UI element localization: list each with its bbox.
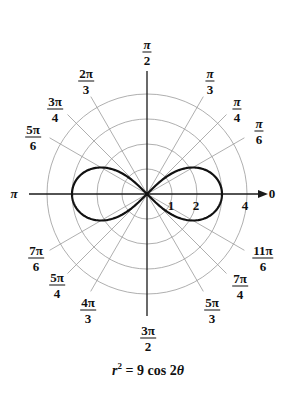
radial-label-1: 1 [168, 198, 175, 214]
denominator: 6 [30, 138, 37, 152]
angle-label-pi-2: π 2 [142, 38, 151, 67]
numerator: 5π [204, 296, 220, 311]
angle-label-pi-3: π 3 [205, 67, 214, 96]
angle-label-2pi-3: 2π 3 [78, 67, 94, 96]
equation-var-theta: θ [177, 363, 184, 378]
denominator: 3 [85, 311, 92, 325]
denominator: 4 [54, 286, 61, 300]
denominator: 2 [144, 53, 151, 67]
denominator: 3 [209, 311, 216, 325]
equation-rhs: = 9 cos 2 [126, 363, 177, 378]
denominator: 6 [33, 259, 40, 273]
angle-label-11pi-6: 11π 6 [252, 244, 273, 273]
angle-label-0: 0 [269, 186, 276, 202]
angle-label-5pi-4: 5π 4 [49, 271, 65, 300]
denominator: 4 [237, 287, 244, 301]
numerator: 5π [49, 271, 65, 286]
radial-label-2: 2 [193, 198, 200, 214]
numerator: 4π [80, 296, 96, 311]
equation-exponent: 2 [118, 361, 123, 371]
angle-label-4pi-3: 4π 3 [80, 296, 96, 325]
axis-arrowhead-icon [258, 190, 268, 198]
numerator: 7π [28, 244, 44, 259]
angle-label-5pi-3: 5π 3 [204, 296, 220, 325]
denominator: 6 [256, 132, 263, 146]
numerator: 3π [140, 324, 156, 339]
numerator: 5π [25, 123, 41, 138]
angle-label-5pi-6: 5π 6 [25, 123, 41, 152]
numerator: 11π [252, 244, 273, 259]
angle-label-pi: π [10, 186, 17, 202]
angle-label-pi-4: π 4 [232, 95, 241, 124]
denominator: 6 [260, 259, 267, 273]
numerator: π [142, 38, 151, 53]
denominator: 4 [234, 110, 241, 124]
denominator: 3 [83, 82, 90, 96]
angle-label-3pi-2: 3π 2 [140, 324, 156, 353]
angle-label-7pi-6: 7π 6 [28, 244, 44, 273]
numerator: 3π [47, 95, 63, 110]
denominator: 3 [207, 82, 214, 96]
denominator: 2 [145, 339, 152, 353]
angle-label-pi-6: π 6 [254, 117, 263, 146]
numerator: π [232, 95, 241, 110]
angle-label-7pi-4: 7π 4 [232, 272, 248, 301]
numerator: π [205, 67, 214, 82]
numerator: 2π [78, 67, 94, 82]
denominator: 4 [52, 110, 59, 124]
radial-label-4: 4 [242, 198, 249, 214]
pole-point [145, 192, 149, 196]
equation-caption: r2 = 9 cos 2θ [112, 361, 184, 379]
numerator: π [254, 117, 263, 132]
angle-label-3pi-4: 3π 4 [47, 95, 63, 124]
numerator: 7π [232, 272, 248, 287]
